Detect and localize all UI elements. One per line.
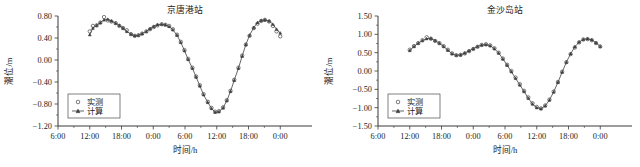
y-axis-title: 潮位/m — [3, 57, 14, 84]
x-tick-label: 12:00 — [400, 132, 419, 141]
y-tick-label: −1.20 — [33, 122, 52, 131]
legend-computed-label: 计算 — [87, 106, 103, 116]
chart-svg-jinshadao: 1.501.000.500.00−0.50−1.00−1.506:0012:00… — [320, 0, 640, 167]
y-tick-label: 0.00 — [357, 67, 372, 76]
chart-panel-jingtanggang: 0.800.400.00−0.40−0.80−1.206:0012:0018:0… — [0, 0, 320, 167]
chart-title: 金沙岛站 — [487, 4, 523, 15]
x-tick-label: 18:00 — [112, 132, 131, 141]
y-tick-label: 1.00 — [357, 30, 372, 39]
x-tick-label: 0:00 — [593, 132, 608, 141]
x-tick-label: 12:00 — [80, 132, 99, 141]
y-tick-label: −1.00 — [353, 104, 372, 113]
x-tick-label: 6:00 — [51, 132, 66, 141]
chart-legend: 实测计算 — [388, 94, 440, 118]
x-tick-label: 6:00 — [498, 132, 513, 141]
x-tick-label: 18:00 — [432, 132, 451, 141]
computed-data-point — [88, 33, 91, 36]
x-tick-label: 18:00 — [239, 132, 258, 141]
x-tick-label: 12:00 — [527, 132, 546, 141]
y-tick-label: −0.50 — [353, 85, 372, 94]
y-tick-label: 0.80 — [37, 12, 52, 21]
x-tick-label: 0:00 — [466, 132, 481, 141]
y-tick-label: 0.40 — [37, 34, 52, 43]
chart-panel-jinshadao: 1.501.000.500.00−0.50−1.00−1.506:0012:00… — [320, 0, 640, 167]
x-tick-label: 0:00 — [146, 132, 161, 141]
chart-title: 京唐港站 — [167, 4, 203, 15]
chart-svg-jingtanggang: 0.800.400.00−0.40−0.80−1.206:0012:0018:0… — [0, 0, 320, 167]
legend-observed-label: 实测 — [87, 97, 103, 107]
x-tick-label: 12:00 — [207, 132, 226, 141]
tide-level-comparison-figure: 0.800.400.00−0.40−0.80−1.206:0012:0018:0… — [0, 0, 640, 167]
x-axis-title: 时间/h — [493, 144, 518, 155]
y-tick-label: 0.00 — [37, 56, 52, 65]
x-tick-label: 0:00 — [273, 132, 288, 141]
y-tick-label: −0.80 — [33, 100, 52, 109]
y-tick-label: −0.40 — [33, 78, 52, 87]
chart-legend: 实测计算 — [68, 94, 120, 118]
x-axis-title: 时间/h — [173, 144, 198, 155]
x-tick-label: 6:00 — [178, 132, 193, 141]
y-tick-label: −1.50 — [353, 122, 372, 131]
observed-data-point — [279, 35, 282, 38]
y-tick-label: 1.50 — [357, 12, 372, 21]
legend-observed-label: 实测 — [407, 97, 423, 107]
x-tick-label: 18:00 — [559, 132, 578, 141]
x-tick-label: 6:00 — [371, 132, 386, 141]
legend-computed-label: 计算 — [407, 106, 423, 116]
y-axis-title: 潮位/m — [323, 57, 334, 84]
y-tick-label: 0.50 — [357, 49, 372, 58]
